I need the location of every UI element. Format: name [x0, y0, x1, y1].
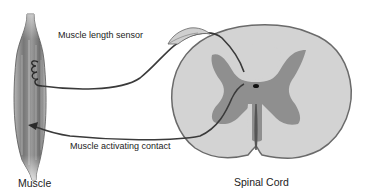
label-spinal-cord: Spinal Cord — [234, 176, 289, 188]
reflex-diagram — [0, 0, 368, 195]
label-muscle: Muscle — [18, 177, 51, 189]
label-muscle-length-sensor: Muscle length sensor — [58, 30, 143, 40]
spinal-cord — [172, 25, 352, 159]
muscle-shape — [14, 14, 46, 180]
label-muscle-activating-contact: Muscle activating contact — [70, 141, 171, 151]
